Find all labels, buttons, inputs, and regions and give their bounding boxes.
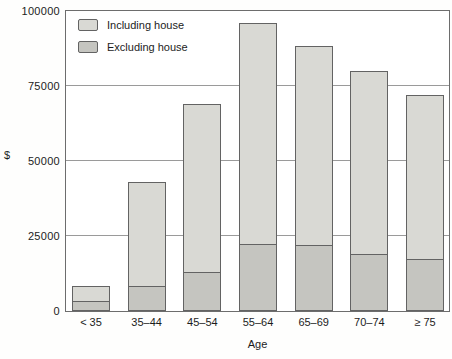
- legend-item-including: Including house: [78, 18, 188, 32]
- y-tick-label: 25000: [0, 230, 60, 242]
- x-tick-label: 55–64: [230, 316, 286, 329]
- x-axis-label: Age: [65, 338, 450, 350]
- y-tick-label: 0: [0, 305, 60, 317]
- x-tick-label: ≥ 75: [397, 316, 452, 329]
- net-worth-bar-chart: $ Including house Excluding house 025000…: [0, 0, 452, 359]
- legend-label-excluding: Excluding house: [107, 41, 188, 53]
- x-tick-label: 45–54: [174, 316, 230, 329]
- x-tick-label: 70–74: [341, 316, 397, 329]
- plot-area: Including house Excluding house: [65, 10, 450, 312]
- legend-swatch-including-icon: [78, 19, 98, 31]
- bar-excluding-house: [239, 244, 277, 312]
- legend-item-excluding: Excluding house: [78, 40, 188, 54]
- bar-excluding-house: [128, 286, 166, 312]
- x-tick-label: 35–44: [119, 316, 175, 329]
- legend: Including house Excluding house: [78, 18, 188, 62]
- bar-excluding-house: [350, 254, 388, 311]
- y-tick-label: 100000: [0, 5, 60, 17]
- x-tick-label: 65–69: [286, 316, 342, 329]
- y-tick-label: 75000: [0, 80, 60, 92]
- legend-label-including: Including house: [107, 19, 184, 31]
- y-tick-label: 50000: [0, 155, 60, 167]
- bar-excluding-house: [295, 245, 333, 311]
- x-tick-label: < 35: [63, 316, 119, 329]
- bar-excluding-house: [406, 259, 444, 312]
- legend-swatch-excluding-icon: [78, 41, 98, 53]
- bar-excluding-house: [72, 301, 110, 312]
- bar-excluding-house: [183, 272, 221, 311]
